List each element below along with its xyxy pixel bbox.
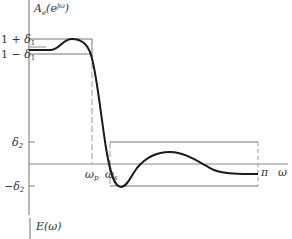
- pi-label: π: [260, 166, 269, 179]
- omega-s-label: ωs: [105, 168, 118, 182]
- svg-text:Ae(ejω): Ae(ejω): [33, 2, 69, 17]
- omega-p-label: ωp: [85, 168, 99, 182]
- frequency-response-curve: [29, 39, 258, 187]
- y-axis-label: Ae(ejω): [33, 2, 69, 17]
- minus-delta2-label: −δ2: [4, 180, 25, 194]
- filter-diagram: Ae(ejω) 1 + δ1 1 − δ1 δ2 −δ2 ωp ωs π ω E…: [0, 0, 292, 239]
- error-label: E(ω): [35, 220, 62, 233]
- one-plus-delta1-label: 1 + δ1: [1, 33, 35, 47]
- one-minus-delta1-label: 1 − δ1: [1, 48, 35, 62]
- delta2-label: δ2: [12, 136, 24, 150]
- x-axis-label: ω: [278, 166, 287, 179]
